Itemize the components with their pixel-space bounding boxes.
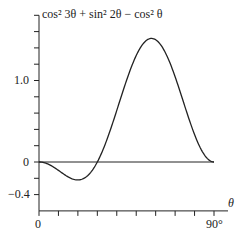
x-axis-label: θ (228, 197, 234, 209)
y-tick-label-neg04: −0.4 (8, 188, 30, 200)
plot-area (0, 0, 241, 235)
data-curve (39, 38, 214, 179)
x-tick-label-0: 0 (35, 218, 41, 230)
y-tick-label-0: 0 (23, 156, 29, 168)
x-tick-label-90: 90° (206, 218, 223, 230)
y-axis-label: cos² 3θ + sin² 2θ − cos² θ (42, 8, 163, 20)
y-tick-label-1: 1.0 (14, 74, 29, 86)
